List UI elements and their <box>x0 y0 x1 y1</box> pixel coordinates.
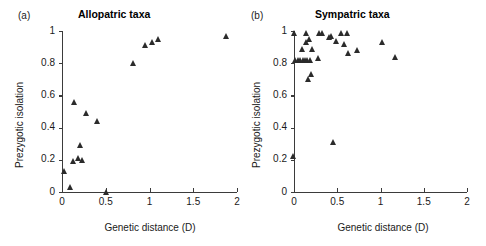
x-tick-label: 1.5 <box>408 196 440 207</box>
x-tick <box>150 188 151 192</box>
data-point-marker <box>309 46 315 52</box>
x-tick <box>467 188 468 192</box>
data-point-marker <box>308 71 314 77</box>
x-tick-label: 0 <box>46 196 78 207</box>
x-tick-label: 1.5 <box>177 196 209 207</box>
data-point-marker <box>71 99 77 105</box>
figure-scatter-pair: (a) Allopatric taxa 00.511.5200.20.40.60… <box>0 0 486 246</box>
data-point-marker <box>77 142 83 148</box>
y-tick <box>59 128 63 129</box>
x-tick-label: 0.5 <box>90 196 122 207</box>
y-tick-label: 0.4 <box>22 121 55 132</box>
y-tick-label: 0.2 <box>22 153 55 164</box>
x-tick-label: 0.5 <box>321 196 353 207</box>
panel-a-tag: (a) <box>18 10 30 21</box>
x-tick-label: 1 <box>365 196 397 207</box>
x-tick <box>337 188 338 192</box>
y-tick <box>59 160 63 161</box>
y-tick-label: 0 <box>22 186 55 197</box>
data-point-marker <box>290 153 296 159</box>
panel-b-xlabel: Genetic distance (D) <box>295 222 471 233</box>
y-axis-line <box>294 31 295 193</box>
x-tick <box>237 188 238 192</box>
y-tick-label: 1 <box>254 25 287 36</box>
data-point-marker <box>142 42 148 48</box>
panel-a-ylabel: Prezygotic isolation <box>14 82 25 168</box>
x-tick-label: 0 <box>278 196 310 207</box>
y-tick <box>291 192 295 193</box>
y-tick <box>291 63 295 64</box>
data-point-marker <box>103 189 109 195</box>
x-tick <box>381 188 382 192</box>
y-tick <box>59 192 63 193</box>
panel-b: (b) Sympatric taxa 00.511.5200.20.40.60.… <box>243 0 486 246</box>
data-point-marker <box>345 50 351 56</box>
panel-b-title: Sympatric taxa <box>315 8 390 20</box>
panel-b-ylabel: Prezygotic isolation <box>251 82 262 168</box>
y-tick-label: 0.8 <box>254 57 287 68</box>
data-point-marker <box>379 39 385 45</box>
panel-a-title: Allopatric taxa <box>78 8 150 20</box>
data-point-marker <box>315 55 321 61</box>
y-tick <box>291 128 295 129</box>
data-point-marker <box>83 110 89 116</box>
data-point-marker <box>307 57 313 63</box>
y-tick <box>291 160 295 161</box>
data-point-marker <box>354 47 360 53</box>
data-point-marker <box>319 30 325 36</box>
y-tick <box>59 31 63 32</box>
x-tick <box>193 188 194 192</box>
y-tick-label: 0 <box>254 186 287 197</box>
y-tick-label: 0.6 <box>22 89 55 100</box>
y-tick <box>291 95 295 96</box>
data-point-marker <box>344 30 350 36</box>
y-tick <box>59 95 63 96</box>
x-axis-line <box>62 192 237 193</box>
x-tick-label: 1 <box>134 196 166 207</box>
data-point-marker <box>303 30 309 36</box>
panel-b-tag: (b) <box>251 10 263 21</box>
data-point-marker <box>291 30 297 36</box>
x-tick <box>424 188 425 192</box>
data-point-marker <box>130 60 136 66</box>
data-point-marker <box>223 33 229 39</box>
data-point-marker <box>330 139 336 145</box>
data-point-marker <box>299 46 305 52</box>
data-point-marker <box>94 118 100 124</box>
y-tick-label: 0.8 <box>22 57 55 68</box>
data-point-marker <box>67 184 73 190</box>
data-point-marker <box>333 38 339 44</box>
data-point-marker <box>392 54 398 60</box>
panel-a-xlabel: Genetic distance (D) <box>62 222 238 233</box>
data-point-marker <box>341 41 347 47</box>
x-axis-line <box>294 192 467 193</box>
x-tick-label: 2 <box>451 196 483 207</box>
y-tick <box>59 63 63 64</box>
panel-a: (a) Allopatric taxa 00.511.5200.20.40.60… <box>0 0 243 246</box>
data-point-marker <box>306 36 312 42</box>
data-point-marker <box>79 157 85 163</box>
data-point-marker <box>155 36 161 42</box>
data-point-marker <box>61 168 67 174</box>
y-tick-label: 1 <box>22 25 55 36</box>
